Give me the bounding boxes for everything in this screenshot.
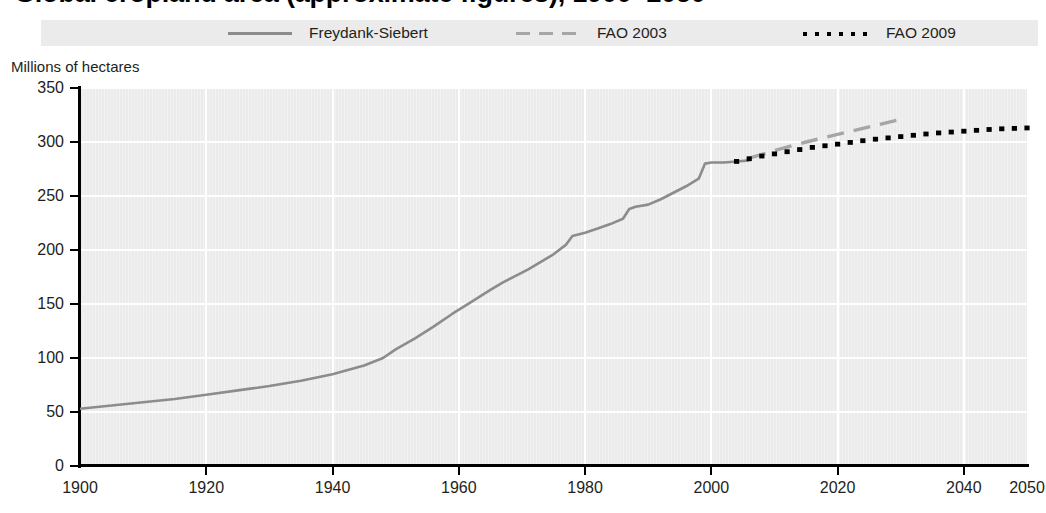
- swatch-line: [516, 32, 580, 35]
- x-tick-label: 2000: [676, 480, 746, 496]
- x-tick: [584, 466, 586, 475]
- y-tick-label: 300: [8, 134, 64, 150]
- legend-label: FAO 2009: [886, 25, 956, 41]
- dashed-line-swatch-icon: [510, 26, 586, 40]
- series-marker: [886, 136, 891, 141]
- swatch-line: [803, 32, 873, 36]
- x-tick: [458, 466, 460, 475]
- legend-label: Freydank-Siebert: [309, 25, 428, 41]
- y-tick-label: 0: [8, 458, 64, 474]
- y-tick: [70, 411, 79, 413]
- series-marker: [835, 142, 840, 147]
- series-marker: [848, 140, 853, 145]
- series-marker: [898, 134, 903, 139]
- series-marker: [747, 156, 752, 161]
- series-marker: [923, 132, 928, 137]
- series-marker: [860, 138, 865, 143]
- y-tick: [70, 249, 79, 251]
- y-tick-label: 200: [8, 242, 64, 258]
- x-tick-label: 1900: [45, 480, 115, 496]
- y-axis-title: Millions of hectares: [11, 58, 139, 75]
- x-tick: [332, 466, 334, 475]
- series-marker: [974, 128, 979, 133]
- series-marker: [987, 127, 992, 132]
- y-tick: [70, 465, 79, 467]
- series-marker: [772, 151, 777, 156]
- legend-item-2[interactable]: FAO 2009: [799, 20, 956, 46]
- y-tick-label: 100: [8, 350, 64, 366]
- page-title-clipped: Global cropland area (approximate figure…: [0, 0, 1046, 13]
- series-marker: [999, 126, 1004, 131]
- x-tick: [205, 466, 207, 475]
- y-tick: [70, 195, 79, 197]
- chart-legend: Freydank-SiebertFAO 2003FAO 2009: [41, 20, 1038, 46]
- series-marker: [822, 143, 827, 148]
- y-tick-label: 150: [8, 296, 64, 312]
- series-marker: [911, 133, 916, 138]
- series-marker: [873, 137, 878, 142]
- x-tick-label: 1980: [550, 480, 620, 496]
- solid-line-swatch-icon: [222, 26, 298, 40]
- y-tick: [70, 303, 79, 305]
- x-tick-label: 2020: [803, 480, 873, 496]
- chart-root: Global cropland area (approximate figure…: [0, 0, 1046, 513]
- dotted-line-swatch-icon: [799, 26, 875, 40]
- series-marker: [759, 154, 764, 159]
- series-marker: [1024, 126, 1029, 131]
- y-tick-label: 250: [8, 188, 64, 204]
- legend-item-0[interactable]: Freydank-Siebert: [222, 20, 428, 46]
- series-marker: [961, 129, 966, 134]
- legend-item-1[interactable]: FAO 2003: [510, 20, 667, 46]
- x-tick: [710, 466, 712, 475]
- x-tick-label: 2050: [992, 480, 1046, 496]
- y-tick-label: 50: [8, 404, 64, 420]
- y-tick: [70, 357, 79, 359]
- x-tick-label: 1920: [171, 480, 241, 496]
- series-layer: [80, 88, 1027, 466]
- x-tick-label: 1940: [298, 480, 368, 496]
- x-tick: [837, 466, 839, 475]
- series-marker: [1012, 126, 1017, 131]
- series-marker: [784, 149, 789, 154]
- swatch-line: [228, 32, 292, 35]
- y-tick: [70, 141, 79, 143]
- series-fao-2009: [734, 126, 1030, 164]
- series-marker: [810, 145, 815, 150]
- y-tick: [70, 87, 79, 89]
- x-tick: [963, 466, 965, 475]
- y-tick-label: 350: [8, 80, 64, 96]
- series-marker: [797, 147, 802, 152]
- page-title: Global cropland area (approximate figure…: [14, 0, 706, 9]
- x-tick-label: 2040: [929, 480, 999, 496]
- x-tick-label: 1960: [424, 480, 494, 496]
- series-marker: [936, 131, 941, 136]
- series-marker: [949, 130, 954, 135]
- legend-label: FAO 2003: [597, 25, 667, 41]
- series-marker: [734, 159, 739, 164]
- series-freydank-siebert: [80, 160, 749, 408]
